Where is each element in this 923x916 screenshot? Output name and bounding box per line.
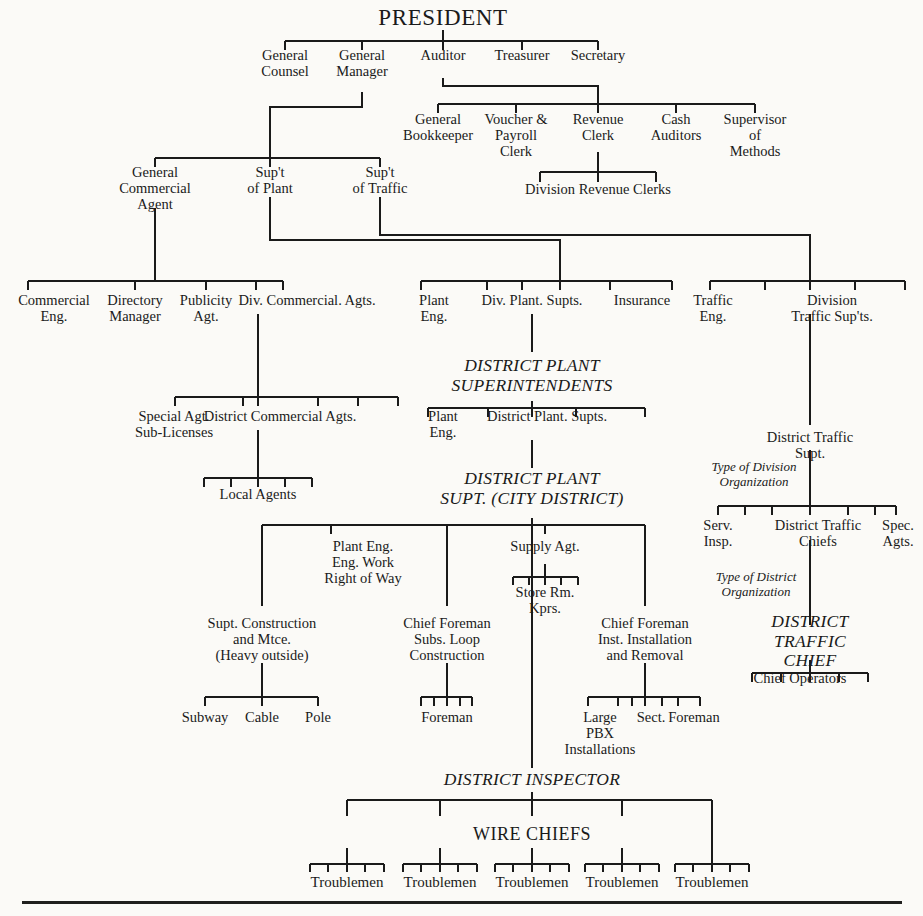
- node-div-commercial-agts[interactable]: Div. Commercial. Agts.: [238, 292, 375, 308]
- node-plant-eng-work-right-of-way[interactable]: Plant Eng. Eng. Work Right of Way: [324, 538, 402, 587]
- node-troublemen-3[interactable]: Troublemen: [496, 874, 569, 891]
- node-traffic-eng[interactable]: Traffic Eng.: [693, 292, 732, 324]
- node-plant-eng[interactable]: Plant Eng.: [419, 292, 449, 324]
- node-district-traffic-chief[interactable]: DISTRICT TRAFFIC CHIEF: [754, 612, 867, 671]
- node-serv-insp[interactable]: Serv. Insp.: [703, 517, 732, 549]
- node-foreman-inst[interactable]: Foreman: [668, 709, 720, 725]
- node-cash-auditors[interactable]: Cash Auditors: [651, 111, 702, 143]
- node-general-bookkeeper[interactable]: General Bookkeeper: [403, 111, 473, 143]
- node-sect[interactable]: Sect.: [637, 709, 666, 725]
- node-revenue-clerk[interactable]: Revenue Clerk: [573, 111, 624, 143]
- node-troublemen-2[interactable]: Troublemen: [404, 874, 477, 891]
- bottom-rule: [22, 901, 902, 904]
- node-division-traffic-supts[interactable]: Division Traffic Sup'ts.: [787, 292, 878, 324]
- node-district-inspector[interactable]: DISTRICT INSPECTOR: [444, 770, 620, 790]
- node-chief-operators[interactable]: Chief Operators: [753, 670, 846, 686]
- node-president[interactable]: PRESIDENT: [378, 5, 507, 31]
- node-supt-of-traffic[interactable]: Sup't of Traffic: [353, 164, 408, 196]
- node-district-traffic-supt[interactable]: District Traffic Supt.: [754, 429, 867, 461]
- node-wire-chiefs[interactable]: WIRE CHIEFS: [473, 824, 591, 844]
- node-district-plant-supt-city-district[interactable]: DISTRICT PLANT SUPT. (CITY DISTRICT): [440, 469, 623, 508]
- node-insurance[interactable]: Insurance: [614, 292, 670, 308]
- node-district-plant-supts[interactable]: District Plant. Supts.: [487, 408, 607, 424]
- node-troublemen-4[interactable]: Troublemen: [586, 874, 659, 891]
- node-publicity-agt[interactable]: Publicity Agt.: [180, 292, 232, 324]
- node-div-plant-supts[interactable]: Div. Plant. Supts.: [482, 292, 583, 308]
- node-foreman-subs[interactable]: Foreman: [421, 709, 473, 725]
- node-directory-manager[interactable]: Directory Manager: [107, 292, 163, 324]
- node-general-manager[interactable]: General Manager: [336, 47, 388, 79]
- org-chart-page: PRESIDENT General Counsel General Manage…: [0, 0, 923, 916]
- node-treasurer[interactable]: Treasurer: [494, 47, 549, 63]
- node-cable[interactable]: Cable: [245, 709, 279, 725]
- node-supt-construction-and-mtce[interactable]: Supt. Construction and Mtce. (Heavy outs…: [208, 615, 317, 664]
- node-troublemen-1[interactable]: Troublemen: [311, 874, 384, 891]
- node-district-plant-superintendents[interactable]: DISTRICT PLANT SUPERINTENDENTS: [451, 356, 612, 395]
- node-large-pbx-installations[interactable]: Large PBX Installations: [565, 709, 636, 758]
- node-voucher-payroll-clerk[interactable]: Voucher & Payroll Clerk: [485, 111, 548, 160]
- node-chief-foreman-inst-installation-and-removal[interactable]: Chief Foreman Inst. Installation and Rem…: [598, 615, 692, 664]
- node-subway[interactable]: Subway: [182, 709, 229, 725]
- node-division-revenue-clerks[interactable]: Division Revenue Clerks: [525, 181, 671, 197]
- node-store-rm-kprs[interactable]: Store Rm. Kprs.: [516, 584, 575, 616]
- annotation-type-of-division-organization: Type of Division Organization: [712, 460, 797, 490]
- node-district-traffic-chiefs[interactable]: District Traffic Chiefs: [766, 517, 871, 549]
- node-commercial-eng[interactable]: Commercial Eng.: [18, 292, 90, 324]
- node-chief-foreman-subs-loop-construction[interactable]: Chief Foreman Subs. Loop Construction: [403, 615, 490, 664]
- node-supply-agt[interactable]: Supply Agt.: [510, 538, 579, 554]
- node-plant-eng-2[interactable]: Plant Eng.: [428, 408, 458, 440]
- node-supervisor-of-methods[interactable]: Supervisor of Methods: [724, 111, 787, 160]
- annotation-type-of-district-organization: Type of District Organization: [716, 570, 797, 600]
- node-local-agents[interactable]: Local Agents: [220, 486, 297, 502]
- node-district-commercial-agts[interactable]: District Commercial Agts.: [204, 408, 357, 424]
- node-secretary[interactable]: Secretary: [571, 47, 626, 63]
- node-auditor[interactable]: Auditor: [420, 47, 465, 63]
- node-general-counsel[interactable]: General Counsel: [261, 47, 309, 79]
- node-special-agt-sub-licenses[interactable]: Special Agt. Sub-Licenses: [135, 408, 213, 440]
- node-pole[interactable]: Pole: [305, 709, 331, 725]
- node-troublemen-5[interactable]: Troublemen: [676, 874, 749, 891]
- node-general-commercial-agent[interactable]: General Commercial Agent: [119, 164, 191, 213]
- node-supt-of-plant[interactable]: Sup't of Plant: [247, 164, 293, 196]
- node-spec-agts[interactable]: Spec. Agts.: [882, 517, 914, 549]
